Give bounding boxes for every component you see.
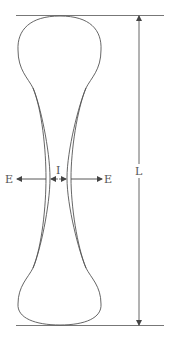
diagram-canvas: E E I L bbox=[0, 0, 174, 342]
length-label: L bbox=[135, 165, 143, 178]
gap-label: I bbox=[56, 164, 60, 177]
left-force-label: E bbox=[5, 173, 13, 186]
specimen-inner-left-curve bbox=[33, 88, 50, 268]
specimen-inner-right-curve bbox=[67, 88, 86, 268]
right-force-label: E bbox=[104, 173, 112, 186]
